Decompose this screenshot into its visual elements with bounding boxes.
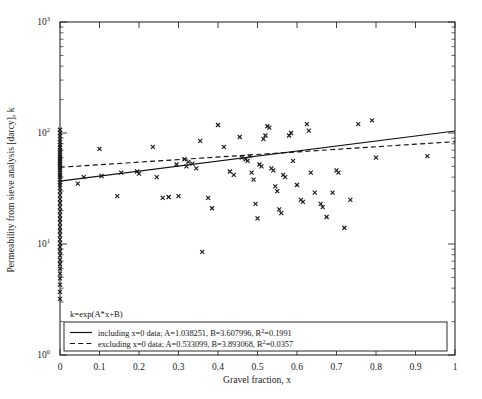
data-point bbox=[309, 171, 313, 175]
legend: including x=0 data; A=1.038251, B=3.6079… bbox=[64, 322, 447, 351]
data-point bbox=[177, 194, 181, 198]
data-point bbox=[336, 171, 340, 175]
data-point bbox=[98, 147, 102, 151]
data-point bbox=[216, 123, 220, 127]
x-tick-label: 1 bbox=[453, 362, 458, 372]
data-point bbox=[275, 189, 279, 193]
equation-annotation: k=exp(A*x+B) bbox=[70, 309, 123, 319]
fit-line-dashed bbox=[60, 142, 455, 168]
x-tick-label: 0.6 bbox=[291, 362, 303, 372]
data-point bbox=[198, 139, 202, 143]
x-tick-label: 0.7 bbox=[331, 362, 343, 372]
y-axis-tick-labels: 100101102103 bbox=[37, 15, 51, 361]
data-point bbox=[301, 200, 305, 204]
data-point bbox=[305, 122, 309, 126]
data-point bbox=[295, 183, 299, 187]
data-point bbox=[228, 169, 232, 173]
data-point bbox=[325, 215, 329, 219]
data-point bbox=[206, 196, 210, 200]
data-point bbox=[246, 159, 250, 163]
data-point bbox=[200, 250, 204, 254]
x-tick-label: 0.1 bbox=[94, 362, 106, 372]
y-tick-label: 100 bbox=[37, 348, 51, 361]
data-point bbox=[167, 195, 171, 199]
data-point bbox=[137, 172, 141, 176]
data-point bbox=[374, 156, 378, 160]
data-point bbox=[194, 166, 198, 170]
data-point bbox=[210, 206, 214, 210]
fit-line-solid bbox=[60, 131, 455, 181]
x-tick-label: 0.8 bbox=[370, 362, 382, 372]
data-points-group bbox=[58, 118, 429, 301]
data-point bbox=[425, 154, 429, 158]
data-point bbox=[250, 171, 254, 175]
x-tick-label: 0.9 bbox=[410, 362, 422, 372]
x-tick-label: 0.4 bbox=[212, 362, 224, 372]
y-tick-label: 101 bbox=[37, 237, 50, 250]
data-point bbox=[331, 191, 335, 195]
x-tick-label: 0.3 bbox=[173, 362, 185, 372]
x-tick-label: 0.5 bbox=[252, 362, 264, 372]
y-axis-ticks bbox=[60, 22, 455, 355]
data-point bbox=[115, 194, 119, 198]
x-tick-label: 0.2 bbox=[133, 362, 145, 372]
x-tick-label: 0 bbox=[58, 362, 63, 372]
data-point bbox=[155, 175, 159, 179]
data-point bbox=[291, 159, 295, 163]
data-point bbox=[273, 184, 277, 188]
data-point bbox=[261, 137, 265, 141]
data-point bbox=[263, 133, 267, 137]
data-point bbox=[307, 129, 311, 133]
data-point bbox=[256, 216, 260, 220]
data-point bbox=[279, 211, 283, 215]
y-tick-label: 102 bbox=[37, 126, 50, 139]
data-point bbox=[277, 207, 281, 211]
data-point bbox=[222, 145, 226, 149]
data-point bbox=[271, 168, 275, 172]
y-tick-label: 103 bbox=[37, 15, 51, 28]
scatter-plot: 100101102103 00.10.20.30.40.50.60.70.80.… bbox=[0, 0, 482, 399]
data-point bbox=[259, 164, 263, 168]
plot-frame bbox=[60, 22, 455, 355]
data-point bbox=[283, 175, 287, 179]
y-axis-title: Permeability from sieve analysis [darcy]… bbox=[5, 107, 16, 272]
data-point bbox=[161, 196, 165, 200]
data-point bbox=[232, 173, 236, 177]
data-point bbox=[186, 160, 190, 164]
data-point bbox=[356, 122, 360, 126]
data-point bbox=[342, 226, 346, 230]
data-point bbox=[254, 202, 258, 206]
data-point bbox=[313, 191, 317, 195]
data-point bbox=[370, 118, 374, 122]
data-point bbox=[151, 145, 155, 149]
data-point bbox=[289, 131, 293, 135]
x-axis-ticks bbox=[60, 22, 455, 355]
fit-lines-group bbox=[60, 131, 455, 181]
data-point bbox=[252, 178, 256, 182]
figure-container: 100101102103 00.10.20.30.40.50.60.70.80.… bbox=[0, 0, 482, 399]
x-axis-title: Gravel fraction, x bbox=[223, 374, 291, 385]
x-axis-tick-labels: 00.10.20.30.40.50.60.70.80.91 bbox=[58, 362, 458, 372]
data-point bbox=[348, 198, 352, 202]
data-point bbox=[76, 182, 80, 186]
data-point bbox=[238, 135, 242, 139]
